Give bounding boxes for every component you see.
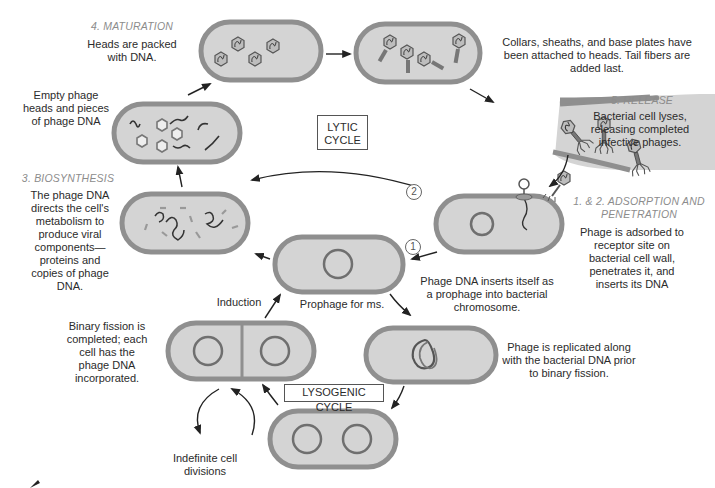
cell-replicating — [366, 328, 496, 382]
cell-empty-heads — [114, 104, 240, 162]
biosynthesis-text: The phage DNA directs the cell's metabol… — [24, 189, 116, 293]
stage-title-maturation: 4. MATURATION — [82, 20, 182, 32]
replicated-text: Phage is replicated along with the bacte… — [502, 341, 636, 380]
binary-fission-text: Binary fission is completed; each cell h… — [64, 320, 150, 385]
cell-prophage — [275, 237, 403, 292]
empty-heads-text: Empty phage heads and pieces of phage DN… — [22, 89, 110, 128]
induction-label: Induction — [212, 296, 266, 309]
assembly-text: Collars, sheaths, and base plates have b… — [494, 36, 700, 75]
lytic-cycle-label: LYTIC CYCLE — [317, 115, 368, 150]
prophage-label: Prophage for ms. — [294, 298, 390, 311]
cell-lysogenic-divided — [270, 411, 396, 467]
stage-title-adsorption: 1. & 2. ADSORPTION AND PENETRATION — [566, 195, 712, 221]
release-text: Bacterial cell lyses, releasing complete… — [575, 110, 705, 149]
indefinite-divisions-text: Indefinite cell divisions — [160, 452, 250, 478]
cell-binary-fission — [168, 323, 314, 379]
cell-adsorption — [436, 171, 570, 252]
maturation-text: Heads are packed with DNA. — [82, 38, 182, 64]
lysogenic-cycle-label: LYSOGENIC CYCLE — [284, 384, 384, 402]
stray-arrow-mark — [30, 480, 40, 488]
stage-title-release: 5. RELEASE — [580, 94, 704, 106]
lytic-line-2: CYCLE — [318, 134, 367, 147]
cell-maturation — [201, 22, 321, 80]
lytic-line-1: LYTIC — [318, 121, 367, 134]
stage-title-biosynthesis: 3. BIOSYNTHESIS — [18, 172, 118, 184]
cell-assembly — [356, 24, 480, 82]
marker-2-text: 2 — [407, 185, 421, 198]
insert-prophage-text: Phage DNA inserts itself as a prophage i… — [420, 275, 554, 314]
marker-1-text: 1 — [406, 240, 420, 253]
adsorption-text: Phage is adsorbed to receptor site on ba… — [576, 226, 688, 291]
cell-biosynthesis — [122, 194, 248, 252]
